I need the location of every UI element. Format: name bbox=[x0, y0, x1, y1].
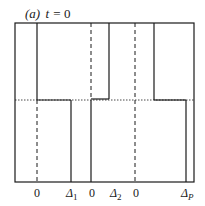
label-zero-2: 0 bbox=[89, 186, 95, 200]
label-zero-1: 0 bbox=[34, 186, 40, 200]
label-delta-2: Δ2 bbox=[109, 186, 122, 202]
outer-frame bbox=[15, 23, 194, 182]
panel-title: (a) t = 0 bbox=[25, 6, 70, 21]
label-zero-3: 0 bbox=[133, 186, 139, 200]
diagram-canvas: (a) t = 0 0 Δ1 0 Δ2 0 ΔP bbox=[0, 0, 205, 206]
label-delta-1: Δ1 bbox=[65, 186, 78, 202]
label-delta-p: ΔP bbox=[180, 186, 194, 202]
